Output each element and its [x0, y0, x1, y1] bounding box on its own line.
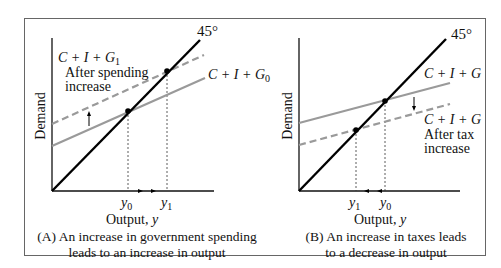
panel-a-x-arrow-2 — [151, 189, 156, 193]
panel-b-y-axis-label: Demand — [280, 92, 296, 139]
panel-b-note-line2: increase — [424, 141, 470, 156]
panel-a-caption: (A) An increase in government spending l… — [36, 229, 258, 261]
panel-a-note-line2: increase — [65, 79, 111, 94]
panel-a-y-axis-label: Demand — [33, 92, 49, 139]
panel-a-x-arrow-1 — [138, 189, 143, 193]
panel-a-equilibrium-y0 — [125, 108, 131, 114]
panel-b-45-degree-label: 45° — [451, 27, 472, 42]
panel-a-cig0-label: C + I + G0 — [208, 67, 270, 86]
panel-b-note-line1: After tax — [424, 127, 474, 142]
panel-a-x-axis-label: Output, y — [106, 212, 158, 227]
panel-b-x-arrow-2 — [377, 189, 382, 193]
panel-b-cig-after-tax-label: C + I + G — [424, 112, 481, 127]
panel-b-x-arrow-1 — [364, 189, 369, 193]
panel-a-note-line1: After spending — [65, 65, 149, 80]
panel-a-tick-y1: y1 — [161, 195, 172, 214]
panel-b-equilibrium-y0 — [382, 98, 388, 104]
panel-b-equilibrium-y1 — [353, 127, 359, 133]
panel-a-45-degree-label: 45° — [197, 24, 218, 39]
panel-b-caption: (B) An increase in taxes leads to a decr… — [291, 229, 481, 261]
panel-a-equilibrium-y1 — [164, 68, 170, 74]
panel-b-x-axis-label: Output, y — [354, 212, 406, 227]
panel-b-cig-label: C + I + G — [424, 66, 481, 81]
